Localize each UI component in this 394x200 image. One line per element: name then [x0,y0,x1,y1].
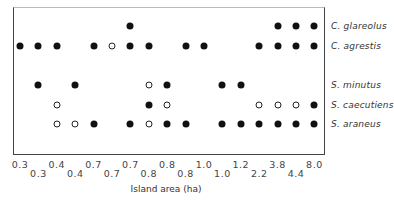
filled-circle-marker [90,43,97,50]
x-tick-label: 0.7 [104,168,121,179]
filled-circle-marker [182,121,189,128]
filled-circle-marker [90,121,97,128]
filled-circle-marker [256,121,263,128]
x-tick-label: 0.7 [122,159,139,170]
x-tick-label: 0.7 [85,159,102,170]
filled-circle-marker [274,43,281,50]
open-circle-marker [72,121,79,128]
filled-circle-marker [293,121,300,128]
open-circle-marker [256,102,263,109]
filled-circle-marker [35,82,42,89]
x-tick-label: 0.8 [177,168,194,179]
filled-circle-marker [293,23,300,30]
open-circle-marker [274,102,281,109]
open-circle-marker [145,82,152,89]
filled-circle-marker [219,121,226,128]
x-tick-label: 1.0 [214,168,231,179]
filled-circle-marker [35,43,42,50]
filled-circle-marker [201,43,208,50]
x-tick-label: 8.0 [306,159,323,170]
filled-circle-marker [293,43,300,50]
filled-circle-marker [219,82,226,89]
filled-circle-marker [17,43,24,50]
open-circle-marker [145,121,152,128]
filled-circle-marker [127,121,134,128]
open-circle-marker [164,102,171,109]
x-tick-label: 0.8 [140,168,157,179]
filled-circle-marker [145,43,152,50]
filled-circle-marker [274,121,281,128]
x-tick-label: 0.4 [67,168,84,179]
x-tick-label: 2.2 [251,168,268,179]
x-tick-label: 0.8 [159,159,176,170]
x-tick-label: 0.3 [30,168,47,179]
species-label: C. glareolus [331,21,387,31]
species-label: S. araneus [331,119,381,129]
filled-circle-marker [237,121,244,128]
filled-circle-marker [256,43,263,50]
filled-circle-marker [127,43,134,50]
filled-circle-marker [311,102,318,109]
filled-circle-marker [53,43,60,50]
species-label: S. caecutiens [331,100,394,110]
x-tick-label: 4.4 [288,168,305,179]
x-axis-label: Island area (ha) [131,184,202,194]
filled-circle-marker [182,43,189,50]
filled-circle-marker [164,82,171,89]
x-tick-label: 0.4 [48,159,65,170]
filled-circle-marker [127,23,134,30]
filled-circle-marker [311,23,318,30]
x-tick-label: 1.0 [196,159,213,170]
open-circle-marker [53,121,60,128]
x-tick-label: 3.8 [269,159,286,170]
filled-circle-marker [274,23,281,30]
filled-circle-marker [237,82,244,89]
open-circle-marker [53,102,60,109]
filled-circle-marker [164,121,171,128]
species-label: C. agrestis [331,41,381,51]
filled-circle-marker [145,102,152,109]
filled-circle-marker [72,82,79,89]
x-tick-label: 1.2 [232,159,249,170]
species-label: S. minutus [331,80,381,90]
filled-circle-marker [311,43,318,50]
open-circle-marker [293,102,300,109]
filled-circle-marker [311,121,318,128]
open-circle-marker [109,43,116,50]
x-tick-label: 0.3 [12,159,29,170]
